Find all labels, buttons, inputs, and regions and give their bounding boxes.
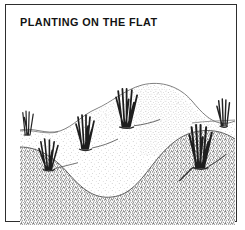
illustration-plate: PLANTING ON THE FLAT [0,0,245,230]
scene-drawing [20,35,235,225]
page-title: PLANTING ON THE FLAT [20,16,158,28]
illustration-canvas [20,35,235,225]
plate-frame: PLANTING ON THE FLAT [5,4,237,222]
